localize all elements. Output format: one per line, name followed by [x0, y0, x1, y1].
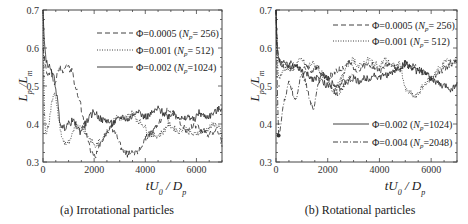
y-tick-label: 0.3: [27, 157, 40, 168]
y-tick-label: 0.7: [260, 5, 273, 16]
x-tick-label: 0: [274, 164, 279, 175]
legend-label: Φ=0.002 (Np=1024): [136, 62, 216, 75]
panel-rotational: 02000400060000.30.40.50.60.7 Φ=0.0005 (N…: [247, 5, 457, 218]
x-tick-label: 2000: [318, 164, 338, 175]
x-tick-label: 4000: [369, 164, 389, 175]
legend-label: Φ=0.004 (Np=2048): [372, 137, 452, 150]
legend-label: Φ=0.001 (Np= 512): [136, 45, 214, 58]
y-tick-label: 0.4: [27, 119, 40, 130]
legend-label: Φ=0.001 (Np= 512): [372, 36, 450, 49]
y-tick-label: 0.6: [260, 43, 273, 54]
x-tick-label: 6000: [421, 164, 441, 175]
x-tick-label: 0: [41, 164, 46, 175]
x-tick-label: 6000: [186, 164, 206, 175]
x-tick-label: 2000: [84, 164, 104, 175]
caption-a: (a) Irrotational particles: [60, 203, 174, 217]
legend-label: Φ=0.0005 (Np= 256): [372, 20, 455, 33]
y-tick-label: 0.7: [27, 5, 40, 16]
legend: Φ=0.0005 (Np= 256)Φ=0.001 (Np= 512)Φ=0.0…: [333, 20, 455, 150]
x-axis-title: tU0 / Dp: [385, 178, 426, 197]
x-axis-title: tU0 / Dp: [146, 178, 187, 197]
series-line: [276, 10, 354, 135]
figure: 02000400060000.30.40.50.60.7 Φ=0.0005 (N…: [0, 0, 468, 224]
panel-irrotational: 02000400060000.30.40.50.60.7 Φ=0.0005 (N…: [15, 5, 222, 218]
legend-label: Φ=0.002 (Np=1024): [372, 119, 452, 132]
x-tick-label: 4000: [135, 164, 155, 175]
y-tick-label: 0.3: [260, 157, 273, 168]
caption-b: (b) Rotational particles: [305, 203, 416, 217]
min-marker: [277, 133, 281, 137]
legend-label: Φ=0.0005 (Np= 256): [136, 28, 219, 41]
legend: Φ=0.0005 (Np= 256)Φ=0.001 (Np= 512)Φ=0.0…: [97, 28, 219, 75]
y-tick-label: 0.6: [27, 43, 40, 54]
y-tick-label: 0.4: [260, 119, 273, 130]
